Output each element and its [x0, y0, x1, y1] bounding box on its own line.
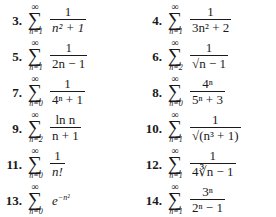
exponential-expression: e−n²	[52, 193, 70, 209]
sigma-icon: ∞ ∑ n=1	[166, 112, 188, 142]
numerator: 1	[63, 5, 74, 18]
lower-limit: n=0	[24, 208, 48, 216]
fraction: 4ⁿ 5ⁿ + 3	[190, 77, 225, 107]
fraction: 1 √(n³ + 1)	[190, 113, 241, 143]
lower-limit: n=1	[164, 208, 188, 216]
lower-limit: n=1	[24, 28, 48, 36]
sigma-icon: ∞ ∑ n=0	[26, 148, 48, 178]
sigma-icon: ∞ ∑ n=1	[166, 148, 188, 178]
denominator: √n − 1	[190, 57, 228, 71]
numerator: 4ⁿ	[200, 77, 215, 90]
numerator: 1	[62, 77, 73, 90]
lower-limit: n=1	[164, 28, 188, 36]
sigma-icon: ∞ ∑ n=0	[26, 76, 48, 106]
sigma-icon: ∞ ∑ n=2	[166, 40, 188, 70]
numerator: 1	[52, 149, 63, 162]
fraction: 1 4ⁿ + 1	[50, 77, 85, 107]
denominator: 4ⁿ + 1	[50, 93, 85, 107]
fraction: 1 n!	[50, 149, 65, 179]
problem-number: 5.	[0, 49, 22, 65]
problem-number: 10.	[140, 121, 162, 137]
denominator: n + 1	[50, 129, 81, 143]
lower-limit: n=0	[24, 100, 48, 108]
fraction: 1 √n − 1	[190, 41, 228, 71]
sigma-icon: ∞ ∑ n=0	[166, 76, 188, 106]
lower-limit: n=1	[24, 64, 48, 72]
problem-number: 8.	[140, 85, 162, 101]
problem-number: 6.	[140, 49, 162, 65]
lower-limit: n=2	[24, 136, 48, 144]
lower-limit: n=0	[24, 172, 48, 180]
fraction: 3ⁿ 2ⁿ − 1	[190, 185, 225, 215]
denominator: 5ⁿ + 3	[190, 93, 225, 107]
denominator: 2n − 1	[50, 57, 87, 71]
problem-number: 7.	[0, 85, 22, 101]
numerator: 1	[205, 5, 216, 18]
problem-number: 14.	[140, 193, 162, 209]
numerator: ln n	[53, 113, 77, 126]
numerator: 1	[208, 149, 219, 162]
problem-number: 11.	[0, 157, 22, 173]
sigma-icon: ∞ ∑ n=1	[166, 4, 188, 34]
numerator: 1	[210, 113, 221, 126]
problem-number: 9.	[0, 121, 22, 137]
sigma-icon: ∞ ∑ n=1	[26, 4, 48, 34]
numerator: 1	[204, 41, 215, 54]
numerator: 3ⁿ	[200, 185, 215, 198]
sigma-icon: ∞ ∑ n=2	[26, 112, 48, 142]
fraction: 1 n² + 1	[50, 5, 86, 35]
fraction: 1 2n − 1	[50, 41, 87, 71]
denominator: √(n³ + 1)	[190, 129, 241, 143]
fraction: 1 3n² + 2	[190, 5, 231, 35]
lower-limit: n=1	[164, 136, 188, 144]
exponent: −n²	[58, 193, 70, 202]
denominator: n² + 1	[50, 21, 86, 35]
lower-limit: n=0	[164, 100, 188, 108]
denominator: 3n² + 2	[190, 21, 231, 35]
problem-number: 3.	[0, 13, 22, 29]
lower-limit: n=1	[164, 172, 188, 180]
lower-limit: n=2	[164, 64, 188, 72]
sigma-icon: ∞ ∑ n=1	[26, 40, 48, 70]
sigma-icon: ∞ ∑ n=1	[166, 184, 188, 214]
fraction: ln n n + 1	[50, 113, 81, 143]
problem-number: 4.	[140, 13, 162, 29]
sigma-icon: ∞ ∑ n=0	[26, 184, 48, 214]
denominator: 4∛n − 1	[190, 165, 236, 179]
denominator: n!	[50, 165, 65, 179]
problem-number: 13.	[0, 193, 22, 209]
problem-number: 12.	[140, 157, 162, 173]
fraction: 1 4∛n − 1	[190, 149, 236, 179]
numerator: 1	[63, 41, 74, 54]
denominator: 2ⁿ − 1	[190, 201, 225, 215]
